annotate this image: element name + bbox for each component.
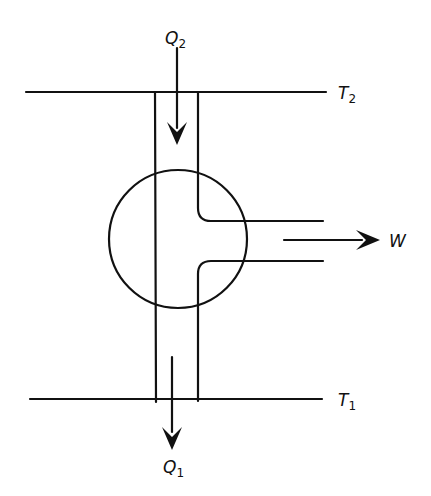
pipe-right-wall-upper bbox=[198, 92, 323, 221]
engine-circle bbox=[109, 170, 247, 308]
pipe-left-wall bbox=[155, 92, 156, 402]
cold-reservoir-label: T1 bbox=[338, 390, 356, 413]
hot-reservoir-label: T2 bbox=[338, 83, 356, 106]
pipe-right-wall-lower bbox=[198, 261, 323, 401]
heat-engine-diagram: Q2 T2 W T1 Q1 bbox=[0, 0, 431, 496]
heat-in-label: Q2 bbox=[165, 28, 186, 51]
work-label: W bbox=[389, 231, 407, 251]
heat-out-label: Q1 bbox=[163, 457, 184, 480]
